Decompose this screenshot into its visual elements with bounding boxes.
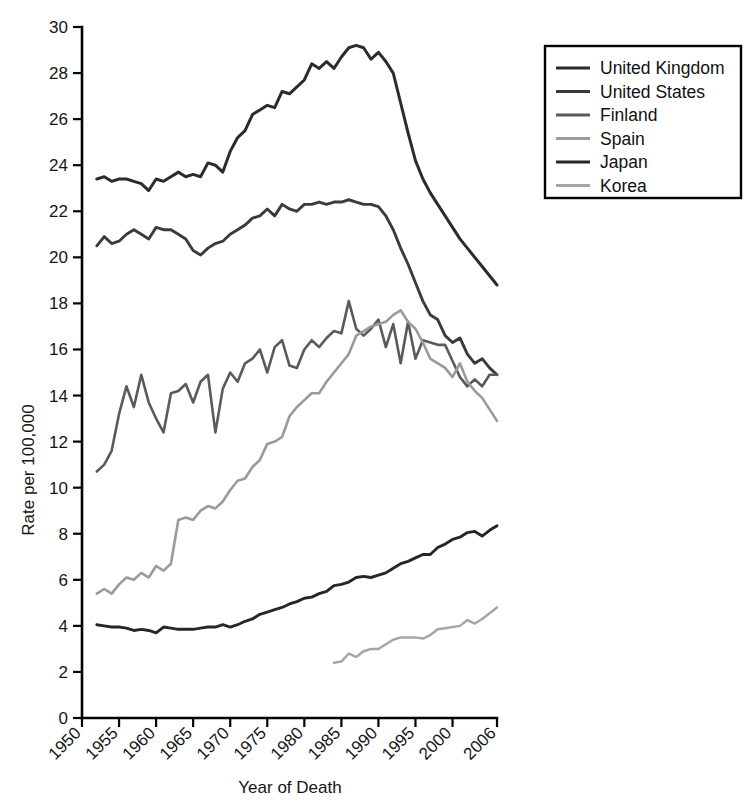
y-tick-label: 30 [49,18,68,37]
chart-page: 024681012141618202224262830 195019551960… [0,0,745,808]
y-tick-label: 4 [59,617,68,636]
y-tick-label: 26 [49,110,68,129]
y-tick-label: 10 [49,479,68,498]
y-tick-label: 14 [49,387,68,406]
y-tick-label: 12 [49,433,68,452]
y-axis-title: Rate per 100,000 [19,404,38,535]
line-chart: 024681012141618202224262830 195019551960… [0,0,745,808]
legend-label-korea: Korea [600,176,647,196]
y-tick-label: 16 [49,340,68,359]
legend-label-united-kingdom: United Kingdom [600,58,725,78]
y-tick-label: 6 [59,571,68,590]
chart-legend: United KingdomUnited StatesFinlandSpainJ… [545,46,741,198]
legend-label-japan: Japan [600,152,648,172]
y-tick-label: 24 [49,156,68,175]
y-tick-label: 22 [49,202,68,221]
legend-label-united-states: United States [600,82,705,102]
y-tick-label: 18 [49,294,68,313]
y-tick-label: 2 [59,663,68,682]
legend-label-spain: Spain [600,129,645,149]
y-tick-label: 20 [49,248,68,267]
y-tick-label: 0 [59,709,68,728]
x-axis-title: Year of Death [238,778,341,797]
legend-label-finland: Finland [600,105,657,125]
y-tick-label: 28 [49,64,68,83]
y-tick-label: 8 [59,525,68,544]
